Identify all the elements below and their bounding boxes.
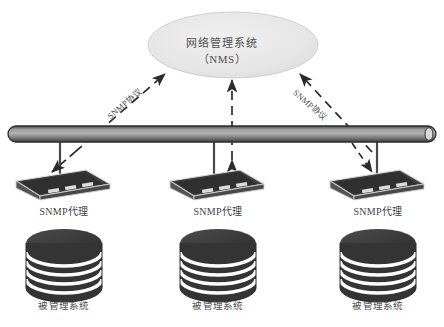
node-disk-3 [340,229,416,302]
nms-subtitle: （NMS） [0,50,444,66]
agent-label-2: SNMP代理 [153,203,283,218]
managed-system-label-3: 被管理系统 [313,298,443,312]
agent-label-3: SNMP代理 [313,203,443,218]
node-disk-1 [26,229,102,302]
node-device-3 [330,170,424,200]
node-device-1 [16,170,110,200]
nms-title: 网络管理系统 [0,34,444,50]
node-device-2 [170,170,264,200]
agent-arrow-left [52,152,75,172]
managed-system-label-2: 被管理系统 [153,298,283,312]
agent-label-1: SNMP代理 [0,203,129,218]
agent-arrow-right [352,143,372,172]
node-disk-2 [180,229,256,302]
managed-system-label-1: 被管理系统 [0,298,129,312]
diagram-canvas: 网络管理系统 （NMS） SNMP协议 SNMP协议 SNMP代理 SNMP代理… [0,0,444,327]
network-bus [8,126,436,142]
